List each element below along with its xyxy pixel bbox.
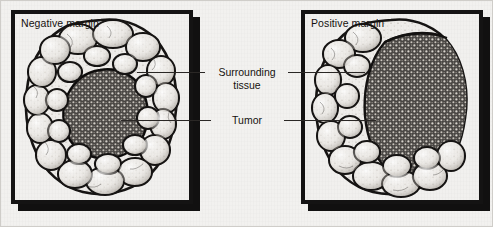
figure-container: Negative margin xyxy=(0,0,493,227)
panel-label-positive-margin: Positive margin xyxy=(311,17,384,29)
annotation-surrounding-tissue-line1: Surrounding xyxy=(218,66,275,78)
panel-content: Negative margin xyxy=(15,14,189,200)
annotation-tumor-line1: Tumor xyxy=(232,114,262,126)
panel-label-negative-margin: Negative margin xyxy=(21,17,99,29)
panel-positive-margin: Positive margin xyxy=(301,10,483,204)
specimen-negative-margin xyxy=(15,14,189,200)
annotation-surrounding-tissue-line2: tissue xyxy=(207,79,287,92)
leader-tumor-right xyxy=(284,120,376,121)
panel-negative-margin: Negative margin xyxy=(11,10,193,204)
leader-surrounding-tissue-right xyxy=(288,72,365,73)
annotation-surrounding-tissue: Surrounding tissue xyxy=(207,66,287,91)
leader-surrounding-tissue-left xyxy=(137,72,205,73)
leader-tumor-left xyxy=(121,120,211,121)
panel-content: Positive margin xyxy=(305,14,479,200)
annotation-tumor: Tumor xyxy=(213,114,281,127)
specimen-positive-margin xyxy=(305,14,479,200)
